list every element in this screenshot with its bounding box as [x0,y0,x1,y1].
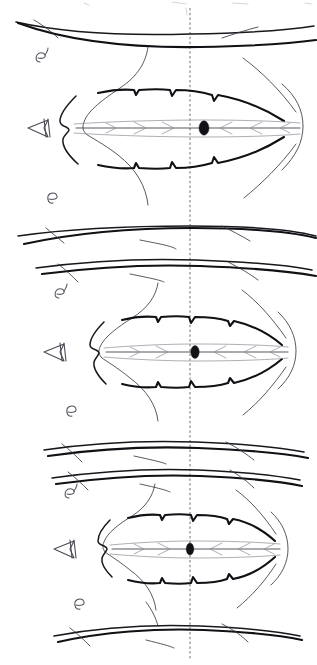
separator-bottom [54,602,302,648]
unit-3-raphe [110,541,280,558]
unit-1-waist [60,96,78,164]
unit-3-right-cap [271,512,288,585]
unit-1-lower-margin [98,137,284,169]
unit-3-left-outline [103,484,156,610]
illustration-canvas: Hand-drawn microscopy illustration Repea… [0,0,317,665]
unit-3-lower-margin [128,557,275,584]
unit-3-arrowhead-marker [54,540,76,558]
unit-2-lower-letter-e [67,406,76,416]
unit-1-lower-letter-e [48,193,57,203]
unit-1-left-outline [83,47,148,205]
unit-3-upper-letter-e [65,484,77,498]
unit-2-right-lower-whisker [243,367,286,415]
figure-svg [0,0,317,665]
unit-2-upper-margin [122,316,282,345]
cell-unit-3 [54,484,288,610]
unit-2-waist [90,322,106,384]
cell-unit-2 [44,283,296,421]
unit-1-arrowhead-marker [28,119,50,137]
unit-3-nucleus [186,543,194,555]
separator-4-5 [52,469,302,492]
unit-1-upper-letter-e [36,48,48,62]
unit-3-waist [98,520,112,577]
unit-3-lower-letter-e [75,599,84,609]
unit-1-right-cap [282,84,303,170]
unit-1-right-lower-whisker [244,144,296,198]
unit-1-raphe [74,120,300,137]
unit-2-arrowhead-marker [44,343,66,361]
unit-2-upper-letter-e [55,284,67,298]
separator-top [16,20,316,47]
separator-2-3 [36,259,316,282]
unit-3-upper-margin [128,514,275,541]
unit-2-right-cap [278,312,296,389]
unit-2-nucleus [191,346,199,359]
separator-1-2 [18,226,316,249]
unit-2-lower-margin [122,359,282,388]
top-edge-artifacts [84,2,312,15]
separator-3-4 [44,441,308,464]
unit-1-upper-margin [98,89,284,121]
unit-2-right-upper-whisker [242,290,286,338]
cell-unit-1 [28,47,303,205]
unit-1-nucleus [199,121,209,135]
